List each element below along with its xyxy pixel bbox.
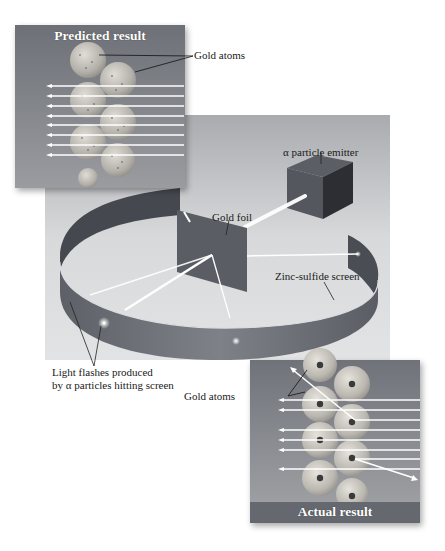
light-flashes-label-line2: by α particles hitting screen [52,379,174,392]
predicted-gold-atoms-label: Gold atoms [194,49,245,62]
actual-gold-atoms-label: Gold atoms [184,390,235,403]
gold-foil-label: Gold foil [212,211,252,224]
alpha-emitter-label: α particle emitter [283,146,358,159]
light-flashes-label-line1: Light flashes produced [52,366,153,379]
predicted-result-title: Predicted result [15,28,185,44]
actual-result-title: Actual result [250,504,420,520]
light-flash [232,337,240,345]
rutherford-diagram [0,0,445,551]
zinc-sulfide-screen-label: Zinc-sulfide screen [275,270,360,283]
